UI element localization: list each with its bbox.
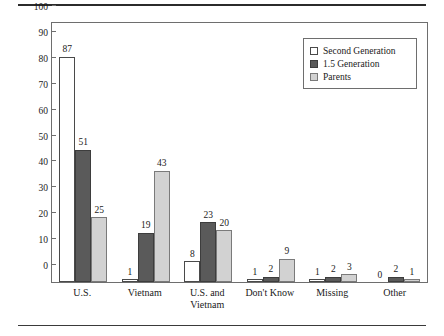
y-tick-70: 70 xyxy=(39,74,53,92)
bar-value-label: 1 xyxy=(409,268,414,278)
bar-value-label: 51 xyxy=(79,138,89,148)
y-tick-mark xyxy=(52,5,56,6)
bar-wrapper: 2 xyxy=(325,277,341,282)
bar-value-label: 43 xyxy=(157,159,167,169)
y-tick-0: 0 xyxy=(43,255,52,273)
bar-group-5: 021 xyxy=(372,277,420,282)
bar-value-label: 1 xyxy=(315,268,320,278)
bar-wrapper: 23 xyxy=(200,222,216,282)
legend-item-2[interactable]: Parents xyxy=(310,70,410,83)
bar-wrapper: 43 xyxy=(154,171,170,282)
bar[interactable] xyxy=(216,230,232,282)
bar-wrapper: 87 xyxy=(59,57,75,282)
y-tick-label: 0 xyxy=(43,261,48,271)
y-tick-100: 100 xyxy=(34,0,52,14)
bar-value-label: 2 xyxy=(331,265,336,275)
y-tick-10: 10 xyxy=(39,229,53,247)
bar-wrapper: 51 xyxy=(75,150,91,282)
bar[interactable] xyxy=(59,57,75,282)
bar[interactable] xyxy=(184,261,200,282)
legend-swatch-icon xyxy=(310,73,318,81)
x-axis-label-5: Other xyxy=(364,287,427,299)
bar[interactable] xyxy=(154,171,170,282)
bar[interactable] xyxy=(91,217,107,282)
bar-value-label: 87 xyxy=(63,45,73,55)
x-axis-label-0: U.S. xyxy=(51,287,114,299)
bar[interactable] xyxy=(263,277,279,282)
legend: Second Generation1.5 GenerationParents xyxy=(303,38,417,89)
legend-item-1[interactable]: 1.5 Generation xyxy=(310,57,410,70)
bar-wrapper: 20 xyxy=(216,230,232,282)
top-rule xyxy=(18,4,426,6)
bar-value-label: 19 xyxy=(141,221,151,231)
bar-wrapper: 1 xyxy=(247,279,263,282)
bar-value-label: 3 xyxy=(347,263,352,273)
bar-wrapper: 3 xyxy=(341,274,357,282)
bar-wrapper: 25 xyxy=(91,217,107,282)
bar-group-2: 82320 xyxy=(184,222,232,282)
bar-value-label: 2 xyxy=(393,265,398,275)
bar-wrapper: 2 xyxy=(263,277,279,282)
y-tick-label: 90 xyxy=(39,28,49,38)
bar-group-3: 129 xyxy=(247,259,295,282)
legend-label: 1.5 Generation xyxy=(323,59,379,69)
x-axis-label-4: Missing xyxy=(301,287,364,299)
bar[interactable] xyxy=(404,279,420,282)
bar-wrapper: 1 xyxy=(404,279,420,282)
bar-value-label: 1 xyxy=(252,268,257,278)
y-tick-80: 80 xyxy=(39,48,53,66)
y-tick-label: 20 xyxy=(39,209,49,219)
bar[interactable] xyxy=(200,222,216,282)
bar[interactable] xyxy=(341,274,357,282)
y-tick-20: 20 xyxy=(39,203,53,221)
bar-value-label: 25 xyxy=(95,206,105,216)
bar-value-label: 1 xyxy=(127,268,132,278)
bar[interactable] xyxy=(247,279,263,282)
bar-wrapper: 1 xyxy=(122,279,138,282)
legend-swatch-icon xyxy=(310,60,318,68)
bar-group-1: 11943 xyxy=(122,171,170,282)
bar[interactable] xyxy=(388,277,404,282)
bar-value-label: 8 xyxy=(190,250,195,260)
figure: Percentage 1009080706050403020100 875125… xyxy=(0,0,444,336)
bar[interactable] xyxy=(138,233,154,282)
y-tick-label: 30 xyxy=(39,183,49,193)
y-tick-50: 50 xyxy=(39,126,53,144)
bar-value-label: 9 xyxy=(284,247,289,257)
legend-label: Second Generation xyxy=(323,46,396,56)
y-tick-label: 70 xyxy=(39,80,49,90)
y-tick-label: 80 xyxy=(39,54,49,64)
bar[interactable] xyxy=(325,277,341,282)
bottom-rule xyxy=(18,325,426,326)
bar-wrapper: 9 xyxy=(279,259,295,282)
y-tick-30: 30 xyxy=(39,177,53,195)
legend-item-0[interactable]: Second Generation xyxy=(310,44,410,57)
bar-wrapper: 8 xyxy=(184,261,200,282)
bar-value-label: 20 xyxy=(220,219,230,229)
x-axis-label-2: U.S. and Vietnam xyxy=(176,287,239,311)
bar-wrapper: 2 xyxy=(388,277,404,282)
y-tick-label: 40 xyxy=(39,157,49,167)
y-tick-label: 50 xyxy=(39,132,49,142)
legend-swatch-icon xyxy=(310,47,318,55)
y-tick-label: 10 xyxy=(39,235,49,245)
bar-wrapper: 1 xyxy=(309,279,325,282)
bar-group-4: 123 xyxy=(309,274,357,282)
bar[interactable] xyxy=(279,259,295,282)
y-tick-60: 60 xyxy=(39,100,53,118)
y-tick-90: 90 xyxy=(39,22,53,40)
bar[interactable] xyxy=(309,279,325,282)
y-tick-40: 40 xyxy=(39,151,53,169)
bar[interactable] xyxy=(122,279,138,282)
x-axis-label-1: Vietnam xyxy=(114,287,177,299)
y-tick-label: 60 xyxy=(39,106,49,116)
x-axis-label-3: Don't Know xyxy=(239,287,302,299)
bar-wrapper: 19 xyxy=(138,233,154,282)
bar-value-label: 0 xyxy=(377,271,382,281)
legend-label: Parents xyxy=(323,72,351,82)
bar-value-label: 23 xyxy=(204,211,214,221)
bar[interactable] xyxy=(75,150,91,282)
y-tick-label: 100 xyxy=(34,2,48,12)
bar-group-0: 875125 xyxy=(59,57,107,282)
bar-value-label: 2 xyxy=(268,265,273,275)
